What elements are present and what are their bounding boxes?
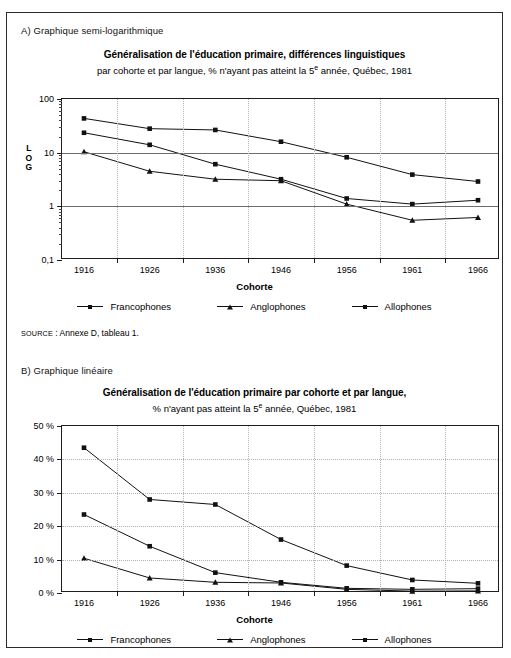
legend-marker-triangle-icon xyxy=(227,304,233,309)
gridline-vertical xyxy=(380,426,382,591)
y-axis-tick xyxy=(57,526,62,527)
y-axis-tick-label: 10 % xyxy=(33,555,54,564)
gridline-vertical xyxy=(248,426,250,591)
y-axis-tick-label: 0 % xyxy=(38,589,54,598)
series-line-anglophones xyxy=(84,152,478,221)
x-axis-tick-label: 1946 xyxy=(271,598,291,608)
panel-a-y-axis-label: L O G xyxy=(23,144,35,173)
legend-item-francophones[interactable]: Francophones xyxy=(77,301,171,312)
x-axis-tick xyxy=(183,591,184,596)
panel-a-x-axis-title: Cohorte xyxy=(7,281,502,292)
y-axis-minor-tick xyxy=(59,155,62,156)
series-marker-allophones xyxy=(344,563,349,568)
y-axis-tick xyxy=(57,99,62,100)
x-axis-tick-label: 1956 xyxy=(337,265,357,275)
y-axis-minor-tick xyxy=(59,209,62,210)
x-axis-tick-label: 1961 xyxy=(402,598,422,608)
gridline-vertical xyxy=(117,426,119,591)
y-axis-minor-tick xyxy=(59,218,62,219)
series-marker-allophones xyxy=(476,581,481,586)
x-axis-tick-label: 1961 xyxy=(402,265,422,275)
legend-item-allophones[interactable]: Allophones xyxy=(352,634,432,645)
y-axis-tick xyxy=(57,206,62,207)
series-marker-allophones xyxy=(147,497,152,502)
legend-label: Allophones xyxy=(385,634,432,645)
legend-swatch-square-icon xyxy=(77,636,103,644)
legend-label: Anglophones xyxy=(250,301,305,312)
gridline-vertical xyxy=(117,99,119,258)
panel-a-title: Généralisation de l'éducation primaire, … xyxy=(7,49,502,60)
y-axis-tick-label: 1 xyxy=(49,202,54,211)
y-axis-tick xyxy=(57,459,62,460)
legend-swatch-square-icon xyxy=(352,636,378,644)
x-axis-tick xyxy=(445,591,446,596)
y-axis-minor-tick xyxy=(59,104,62,105)
x-axis-tick xyxy=(445,258,446,263)
series-marker-allophones xyxy=(147,126,152,131)
legend-label: Anglophones xyxy=(250,634,305,645)
x-axis-tick-label: 1946 xyxy=(271,265,291,275)
x-axis-tick-label: 1936 xyxy=(205,265,225,275)
y-axis-minor-tick xyxy=(59,169,62,170)
x-axis-tick-label: 1966 xyxy=(468,598,488,608)
x-axis-tick xyxy=(314,591,315,596)
series-marker-francophones xyxy=(213,570,218,575)
legend-item-anglophones[interactable]: Anglophones xyxy=(217,634,305,645)
source-text: : Annexe D, tableau 1. xyxy=(53,328,139,338)
y-axis-minor-tick xyxy=(59,222,62,223)
legend-item-anglophones[interactable]: Anglophones xyxy=(217,301,305,312)
x-axis-tick xyxy=(314,258,315,263)
y-axis-minor-tick xyxy=(59,234,62,235)
panel-b-subtitle: % n'ayant pas atteint la 5e année, Québe… xyxy=(7,402,502,414)
gridline-vertical xyxy=(445,99,447,258)
x-axis-tick-label: 1966 xyxy=(468,265,488,275)
series-marker-francophones xyxy=(82,130,87,135)
y-axis-tick xyxy=(57,493,62,494)
panel-a-source: SOURCE : Annexe D, tableau 1. xyxy=(21,328,139,338)
y-axis-minor-tick xyxy=(59,244,62,245)
y-axis-tick-label: 30 % xyxy=(33,488,54,497)
legend-swatch-square-icon xyxy=(77,303,103,311)
y-axis-minor-tick xyxy=(59,228,62,229)
panel-a-plot-area: 1001010,11916192619361946195619611966 xyxy=(61,98,499,259)
x-axis-tick-label: 1916 xyxy=(74,265,94,275)
legend-item-allophones[interactable]: Allophones xyxy=(352,301,432,312)
panel-b-series-layer xyxy=(62,426,500,593)
legend-swatch-triangle-icon xyxy=(217,303,243,311)
series-marker-francophones xyxy=(344,196,349,201)
series-line-allophones xyxy=(84,448,478,584)
y-axis-minor-tick xyxy=(59,120,62,121)
legend-marker-square-icon xyxy=(363,638,367,642)
x-axis-tick xyxy=(248,258,249,263)
x-axis-tick-label: 1926 xyxy=(140,265,160,275)
panel-b-subtitle-pre: % n'ayant pas atteint la 5 xyxy=(153,403,259,414)
legend-item-francophones[interactable]: Francophones xyxy=(77,634,171,645)
y-axis-minor-tick xyxy=(59,107,62,108)
y-axis-minor-tick xyxy=(59,212,62,213)
gridline-horizontal xyxy=(62,459,498,460)
y-axis-minor-tick xyxy=(59,127,62,128)
series-marker-francophones xyxy=(147,544,152,549)
legend-swatch-square-icon xyxy=(352,303,378,311)
series-marker-allophones xyxy=(82,116,87,121)
y-axis-tick xyxy=(57,153,62,154)
legend-marker-square-icon xyxy=(88,638,92,642)
gridline-vertical xyxy=(314,426,316,591)
series-marker-allophones xyxy=(279,139,284,144)
gridline-vertical xyxy=(183,426,185,591)
y-axis-minor-tick xyxy=(59,215,62,216)
gridline-horizontal xyxy=(62,206,498,207)
panel-a-subtitle: par cohorte et par langue, % n'ayant pas… xyxy=(7,64,502,76)
panel-b-title: Généralisation de l'éducation primaire p… xyxy=(7,387,502,398)
series-marker-francophones xyxy=(82,512,87,517)
legend-label: Allophones xyxy=(385,301,432,312)
gridline-horizontal xyxy=(62,493,498,494)
gridline-horizontal xyxy=(62,526,498,527)
x-axis-tick xyxy=(183,258,184,263)
x-axis-tick-label: 1926 xyxy=(140,598,160,608)
y-axis-minor-tick xyxy=(59,101,62,102)
series-marker-francophones xyxy=(147,143,152,148)
series-marker-allophones xyxy=(82,445,87,450)
y-axis-tick xyxy=(57,260,62,261)
y-axis-tick-label: 40 % xyxy=(33,455,54,464)
